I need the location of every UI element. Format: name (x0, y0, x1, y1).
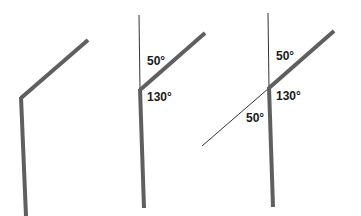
figure-3-vertical-reference (268, 13, 269, 88)
figure-3-angle-label-lower: 130° (276, 90, 301, 102)
figure-3 (202, 13, 334, 207)
figure-1-lower-arm (21, 97, 26, 216)
figure-1 (21, 40, 88, 216)
figure-2-angle-label-lower: 130° (147, 91, 172, 103)
figure-2-angle-label-upper: 50° (147, 55, 165, 67)
figure-2-lower-arm (140, 89, 144, 208)
figure-3-lower-arm (269, 87, 273, 207)
angle-diagram (0, 0, 361, 216)
figure-1-upper-arm (21, 40, 88, 98)
figure-2-vertical-reference (139, 15, 140, 90)
figure-2 (139, 15, 205, 208)
figure-3-angle-label-extension: 50° (246, 112, 264, 124)
figure-3-angle-label-upper: 50° (276, 50, 294, 62)
